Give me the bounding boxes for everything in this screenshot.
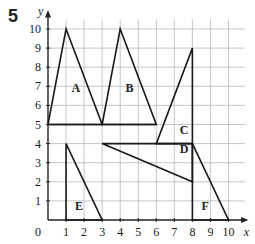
y-axis-label: y [37, 4, 44, 18]
y-axis-arrow-icon [45, 10, 51, 18]
triangle-b [102, 29, 156, 125]
y-tick-label: 8 [35, 60, 41, 74]
x-tick-label: 5 [135, 225, 141, 239]
x-tick-label: 4 [117, 225, 123, 239]
shape-label-d: D [180, 142, 189, 156]
x-tick-label: 3 [99, 225, 105, 239]
y-tick-label: 5 [35, 118, 41, 132]
shape-label-e: E [75, 199, 83, 213]
triangle-a [48, 29, 102, 125]
y-tick-label: 10 [29, 22, 41, 36]
shape-label-a: A [71, 81, 80, 95]
x-axis-label: x [243, 225, 250, 239]
x-tick-label: 1 [63, 225, 69, 239]
x-tick-label: 7 [171, 225, 177, 239]
x-tick-label: 6 [153, 225, 159, 239]
axes [45, 10, 248, 223]
y-tick-label: 7 [35, 79, 41, 93]
y-tick-label: 6 [35, 98, 41, 112]
y-tick-label: 2 [35, 175, 41, 189]
shape-label-f: F [201, 199, 208, 213]
shape-label-c: C [180, 123, 189, 137]
shape-label-b: B [126, 81, 134, 95]
y-tick-label: 4 [35, 137, 41, 151]
x-tick-label: 10 [223, 225, 235, 239]
tick-labels: 12345678910123456789100xy [29, 4, 250, 239]
y-tick-label: 1 [35, 194, 41, 208]
origin-label: 0 [35, 225, 41, 239]
y-tick-label: 3 [35, 156, 41, 170]
y-tick-label: 9 [35, 41, 41, 55]
x-tick-label: 9 [207, 225, 213, 239]
x-tick-label: 8 [189, 225, 195, 239]
coordinate-grid-diagram: ABCDEF 12345678910123456789100xy [0, 0, 255, 244]
grid-lines [48, 19, 245, 220]
x-axis-arrow-icon [241, 217, 248, 223]
x-tick-label: 2 [81, 225, 87, 239]
